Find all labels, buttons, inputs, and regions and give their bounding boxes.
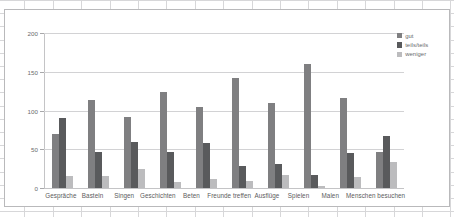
bar-1[interactable] [383,136,390,188]
y-axis-tick-mark [40,111,44,112]
bar-2[interactable] [210,179,217,188]
legend-item[interactable]: teils/teils [397,41,449,49]
bar-0[interactable] [52,134,59,188]
legend-item[interactable]: weniger [397,50,449,58]
bar-2[interactable] [318,186,325,188]
bar-1[interactable] [167,152,174,188]
bar-0[interactable] [376,152,383,188]
bar-1[interactable] [59,118,66,188]
bar-2[interactable] [174,182,181,188]
bar-group[interactable] [45,33,81,188]
x-axis-category-label: Malen [314,191,346,205]
bar-group[interactable] [189,33,225,188]
bar-0[interactable] [304,64,311,188]
bar-1[interactable] [347,153,354,188]
bar-2[interactable] [138,169,145,188]
bar-2[interactable] [354,177,361,188]
bar-group[interactable] [81,33,117,188]
gridline [44,188,404,189]
bar-2[interactable] [102,176,109,188]
chart-legend: gutteils/teilsweniger [397,32,449,60]
x-axis-category-label: Geschichten [140,191,176,205]
bar-0[interactable] [340,98,347,188]
bars-layer [45,33,404,188]
bar-group[interactable] [225,33,261,188]
legend-swatch-icon [397,33,402,38]
bar-0[interactable] [196,107,203,188]
bar-group[interactable] [332,33,368,188]
bar-2[interactable] [390,162,397,188]
legend-label: teils/teils [405,42,428,48]
x-axis-category-label: Gespräche [45,191,77,205]
bar-group[interactable] [296,33,332,188]
legend-swatch-icon [397,42,402,47]
y-axis-tick-mark [40,149,44,150]
x-axis-category-label: Spielen [283,191,315,205]
y-axis-tick-mark [40,33,44,34]
legend-item[interactable]: gut [397,32,449,40]
x-axis-category-label: Basteln [77,191,109,205]
bar-1[interactable] [275,164,282,188]
y-axis-tick-label: 0 [34,185,38,192]
bar-2[interactable] [246,181,253,188]
bar-0[interactable] [88,100,95,188]
y-axis-tick-label: 100 [27,107,38,114]
y-axis-tick-label: 50 [31,146,38,153]
chart-object-frame[interactable]: 050100150200 GesprächeBastelnSingenGesch… [4,9,450,207]
bar-1[interactable] [203,143,210,188]
bar-2[interactable] [66,176,73,188]
bar-0[interactable] [268,103,275,188]
bar-2[interactable] [282,175,289,188]
legend-label: weniger [405,51,426,57]
x-axis-category-label: Ausflüge [251,191,283,205]
y-axis-tick-label: 200 [27,30,38,37]
legend-swatch-icon [397,52,402,57]
bar-1[interactable] [131,142,138,189]
x-axis-category-label: Menschen besuchen [346,191,405,205]
legend-label: gut [405,33,413,39]
chart-plot-area: 050100150200 [44,33,404,188]
x-axis-category-label: Freunde treffen [207,191,251,205]
bar-0[interactable] [232,78,239,188]
bar-0[interactable] [124,117,131,188]
bar-1[interactable] [311,175,318,188]
x-axis-category-label: Beten [176,191,208,205]
x-axis-category-labels: GesprächeBastelnSingenGeschichtenBetenFr… [45,191,405,205]
x-axis-category-label: Singen [108,191,140,205]
bar-group[interactable] [117,33,153,188]
bar-0[interactable] [160,92,167,188]
bar-group[interactable] [153,33,189,188]
y-axis-tick-label: 150 [27,68,38,75]
y-axis-tick-mark [40,188,44,189]
bar-1[interactable] [239,166,246,188]
bar-group[interactable] [260,33,296,188]
y-axis-tick-mark [40,72,44,73]
bar-1[interactable] [95,152,102,188]
